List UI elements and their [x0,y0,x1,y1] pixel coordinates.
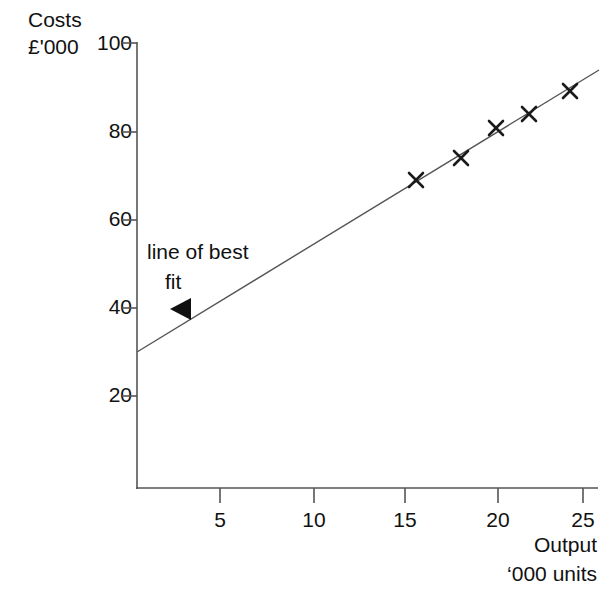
annotation-pointer-triangle [170,298,191,320]
data-point-marker [409,173,423,187]
y-axis-ticks [122,43,137,396]
scatter-chart: Costs £'000 100 80 60 40 20 5 10 15 20 2… [0,0,601,593]
chart-canvas [0,0,601,593]
data-point-marker [522,107,536,121]
x-axis-ticks [220,488,583,503]
